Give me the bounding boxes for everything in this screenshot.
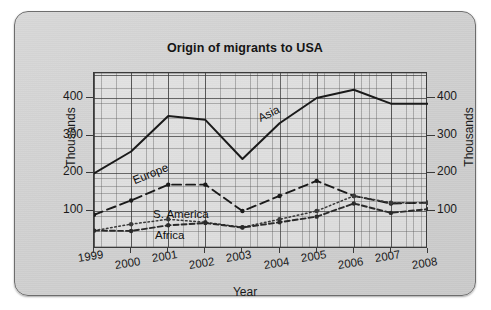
x-tick-label: 2006 <box>337 255 364 271</box>
series-line-africa <box>94 203 428 230</box>
data-point <box>203 221 207 225</box>
data-point <box>389 211 393 215</box>
data-point <box>389 201 393 205</box>
data-point <box>240 209 244 213</box>
x-tick-label: 2004 <box>263 255 290 271</box>
chart-title: Origin of migrants to USA <box>15 41 475 55</box>
data-point <box>129 198 133 202</box>
y-tick-mark-right <box>427 172 435 173</box>
y-tick-label-left: 300 <box>51 127 83 141</box>
data-point <box>426 207 428 211</box>
data-point <box>314 209 318 213</box>
y-tick-label-left: 100 <box>51 202 83 216</box>
y-tick-label-right: 400 <box>437 89 457 103</box>
y-tick-label-right: 100 <box>437 202 457 216</box>
data-point <box>277 220 281 224</box>
data-point <box>314 214 318 218</box>
x-tick-label: 2008 <box>411 255 438 271</box>
data-point <box>166 223 170 227</box>
x-tick-label: 2003 <box>225 248 252 264</box>
data-point <box>203 182 207 186</box>
chart-card: Origin of migrants to USA Thousands Thou… <box>14 11 476 296</box>
data-point <box>129 222 133 226</box>
data-point <box>277 194 281 198</box>
y-tick-mark-right <box>427 135 435 136</box>
series-label-africa: Africa <box>155 229 184 241</box>
data-point <box>166 182 170 186</box>
data-point <box>426 201 428 205</box>
x-tick-label: 1999 <box>77 248 104 264</box>
data-point <box>129 229 133 233</box>
series-lines <box>94 73 428 249</box>
y-tick-label-right: 300 <box>437 127 457 141</box>
plot-area <box>93 72 427 248</box>
data-point <box>352 194 356 198</box>
data-point <box>352 201 356 205</box>
y-tick-label-left: 200 <box>51 164 83 178</box>
x-tick-label: 2005 <box>300 248 327 264</box>
y-tick-mark-right <box>427 97 435 98</box>
x-tick-label: 2007 <box>374 248 401 264</box>
series-label-s-america: S. America <box>153 208 209 220</box>
data-point <box>240 225 244 229</box>
y-tick-label-right: 200 <box>437 164 457 178</box>
x-tick-label: 2001 <box>151 248 178 264</box>
y-tick-label-left: 400 <box>51 89 83 103</box>
data-point <box>94 228 96 232</box>
x-axis-label: Year <box>15 285 475 299</box>
x-tick-label: 2000 <box>114 255 141 271</box>
y-tick-mark-right <box>427 210 435 211</box>
data-point <box>314 179 318 183</box>
x-tick-label: 2002 <box>188 255 215 271</box>
series-line-asia <box>94 90 428 174</box>
y-axis-label-right: Thousands <box>462 107 476 166</box>
